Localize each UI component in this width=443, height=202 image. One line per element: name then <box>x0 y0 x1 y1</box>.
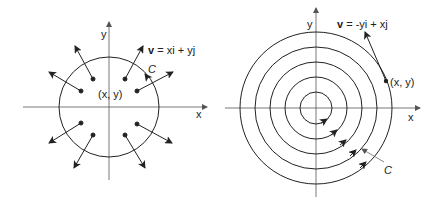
rotational-field-figure: y x v = -yi + xj (x, y) C <box>225 8 420 197</box>
field-equation: v = xi + yj <box>148 44 195 56</box>
vector-field-diagrams: y x v = xi + yj C (x, y) y x v = -yi + x… <box>0 0 443 202</box>
point-dot <box>384 79 388 83</box>
curve-pointer <box>362 149 384 162</box>
y-axis-label: y <box>101 28 107 40</box>
curve-label: C <box>384 164 392 176</box>
y-axis-label: y <box>307 18 313 30</box>
curve-label: C <box>148 63 156 75</box>
circle-direction-arrows <box>321 119 366 168</box>
field-vector <box>365 32 386 81</box>
field-equation: v = -yi + xj <box>337 18 388 30</box>
point-label: (x, y) <box>390 76 414 88</box>
x-axis-label: x <box>408 111 414 123</box>
radial-field-figure: y x v = xi + yj C (x, y) <box>23 22 207 180</box>
x-axis-label: x <box>196 108 202 120</box>
point-label: (x, y) <box>98 88 122 100</box>
